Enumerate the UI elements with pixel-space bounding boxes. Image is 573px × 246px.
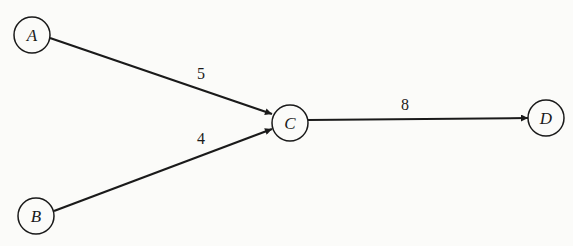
- node-b: B: [18, 198, 54, 234]
- node-b-label: B: [31, 207, 42, 226]
- node-c-label: C: [284, 114, 296, 133]
- edge-c-d: 8: [308, 96, 528, 120]
- node-c: C: [272, 105, 308, 141]
- graph-diagram: 5 4 8 A B C D: [0, 0, 573, 246]
- graph-canvas: 5 4 8 A B C D: [0, 0, 573, 246]
- edge-b-c-arrow-icon: [54, 129, 272, 211]
- edge-c-d-weight: 8: [401, 96, 409, 113]
- node-d: D: [528, 100, 564, 136]
- node-d-label: D: [539, 109, 553, 128]
- edge-a-c-weight: 5: [197, 65, 205, 82]
- edge-b-c-weight: 4: [197, 130, 205, 147]
- edge-b-c: 4: [54, 129, 272, 211]
- node-a: A: [14, 17, 50, 53]
- node-a-label: A: [26, 26, 38, 45]
- edge-a-c-arrow-icon: [50, 38, 272, 114]
- edge-c-d-arrow-icon: [308, 118, 528, 120]
- edge-a-c: 5: [50, 38, 272, 114]
